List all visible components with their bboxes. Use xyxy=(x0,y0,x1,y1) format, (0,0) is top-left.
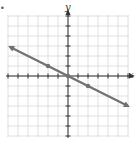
axes xyxy=(6,9,135,138)
y-axis-label: y xyxy=(65,2,71,12)
x-axis-label: x xyxy=(128,70,134,80)
data-point xyxy=(86,84,90,88)
data-point xyxy=(66,74,70,78)
data-point xyxy=(46,64,50,68)
coordinate-graph xyxy=(0,0,135,143)
